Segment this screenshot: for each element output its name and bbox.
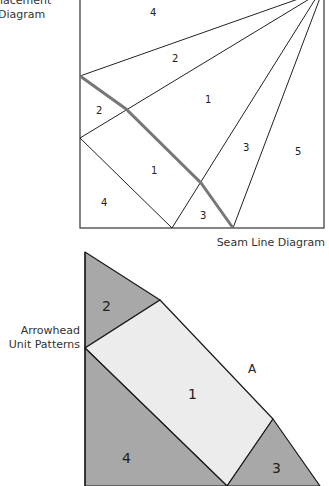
caption-line: Diagram xyxy=(0,8,45,22)
piece-label: 3 xyxy=(243,142,249,153)
piece-label: 3 xyxy=(272,460,281,476)
seam-line xyxy=(233,0,320,228)
piece-label: 2 xyxy=(102,298,111,314)
seam-line-diagram-caption: Seam Line Diagram xyxy=(200,236,325,250)
seam-line xyxy=(80,0,311,138)
seam-line-diagram xyxy=(80,0,324,228)
seam-line xyxy=(172,0,316,228)
piece-label: 5 xyxy=(295,146,301,157)
piece-label: 1 xyxy=(205,94,211,105)
piece-label: 4 xyxy=(101,197,107,208)
pattern-label-a: A xyxy=(248,362,257,376)
seam-line xyxy=(80,138,172,228)
seam-diagram-labels: 4 2 2 1 3 5 1 4 3 xyxy=(96,7,301,221)
caption-line: lacement xyxy=(0,0,45,8)
piece-label: 3 xyxy=(200,210,206,221)
caption-line: Unit Patterns xyxy=(0,338,80,352)
piece-label: 2 xyxy=(96,105,102,116)
caption-line: Arrowhead xyxy=(0,324,80,338)
piece-label: 2 xyxy=(172,53,178,64)
square-border xyxy=(80,0,324,228)
arrowhead-unit-pattern xyxy=(85,252,320,486)
seam-line xyxy=(80,0,301,76)
piece-label: 1 xyxy=(151,165,157,176)
arrowhead-unit-patterns-caption: Arrowhead Unit Patterns xyxy=(0,324,80,352)
piece-label: 1 xyxy=(188,386,197,402)
piece-label: 4 xyxy=(150,7,156,18)
placement-diagram-caption: lacement Diagram xyxy=(0,0,45,22)
piece-label: 4 xyxy=(122,450,131,466)
